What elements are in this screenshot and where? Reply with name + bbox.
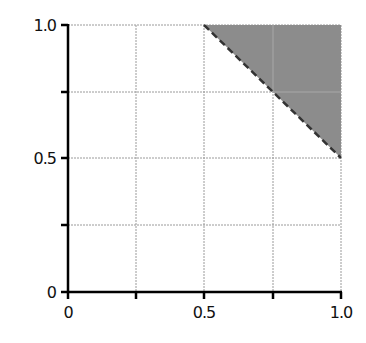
chart: 1.0 0.5 0 0 0.5 1.0 [0, 0, 366, 343]
y-tick-label-1.0: 1.0 [34, 16, 57, 35]
x-tick-label-0: 0 [63, 303, 73, 322]
y-tick-label-0: 0 [47, 283, 57, 302]
x-tick-label-0.5: 0.5 [193, 303, 215, 322]
y-tick-label-0.5: 0.5 [34, 149, 56, 168]
x-tick-label-1.0: 1.0 [330, 303, 353, 322]
